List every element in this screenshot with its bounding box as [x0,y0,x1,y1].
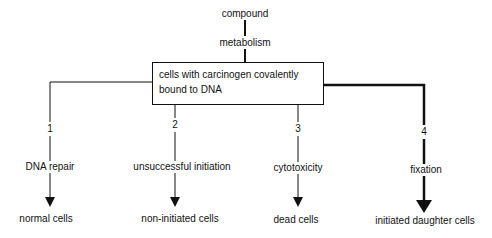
branch-4-number: 4 [421,125,427,139]
branch-3-arrowhead-icon [293,197,303,207]
metabolism-label: metabolism [218,37,271,49]
branch-1-process: DNA repair [25,161,76,173]
compound-label: compound [221,8,270,20]
central-box-text: cells with carcinogen covalently bound t… [159,67,324,97]
central-box-line-2: bound to DNA [159,82,324,97]
branch-1-arrowhead-icon [45,197,55,207]
branch-2-outcome: non-initiated cells [140,213,219,225]
branch-1-line [50,82,152,198]
branch-3-number: 3 [295,122,301,136]
branch-3-process: cytotoxicity [273,162,324,174]
carcinogenesis-flow-diagram: compound metabolism cells with carcinoge… [0,0,492,238]
branch-2-arrowhead-icon [170,197,180,207]
branch-2-process: unsuccessful initiation [132,161,231,173]
central-box: cells with carcinogen covalently bound t… [152,62,324,105]
branch-2-number: 2 [172,118,178,132]
connector-lines [0,0,492,238]
branch-1-number: 1 [47,122,53,136]
branch-1-outcome: normal cells [18,213,73,225]
branch-4-line [324,85,424,202]
central-box-line-1: cells with carcinogen covalently [159,67,324,82]
branch-4-arrowhead-icon [416,200,432,213]
branch-4-process: fixation [409,164,443,176]
branch-4-outcome: initiated daughter cells [374,215,476,227]
branch-3-outcome: dead cells [272,214,319,226]
